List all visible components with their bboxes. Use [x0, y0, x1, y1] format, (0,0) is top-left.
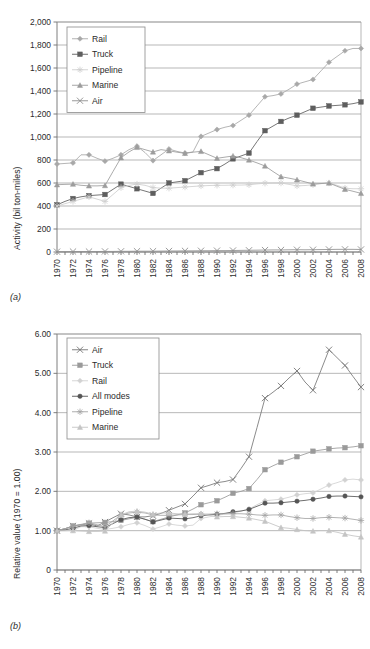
x-tick-label: 1998 — [276, 577, 286, 596]
x-tick-label: 1996 — [260, 577, 270, 596]
x-tick-label: 1994 — [244, 577, 254, 596]
y-tick-label: 3.00 — [35, 447, 52, 457]
legend-label: Air — [92, 345, 103, 355]
x-tick-label: 2006 — [340, 259, 350, 278]
plot-area-b: 01.002.003.004.005.006.00197019721974197… — [0, 324, 370, 649]
y-tick-label: 1,400 — [30, 86, 51, 96]
x-tick-label: 1982 — [148, 259, 158, 278]
legend-label: Truck — [92, 49, 114, 59]
x-tick-label: 1972 — [68, 577, 78, 596]
legend-label: Air — [92, 96, 103, 106]
y-tick-label: 4.00 — [35, 408, 52, 418]
x-tick-label: 1978 — [116, 577, 126, 596]
chart-legend: AirTruckRailAll modesPipelineMarine — [67, 338, 159, 439]
x-tick-label: 2008 — [356, 259, 366, 278]
legend-label: Truck — [92, 360, 114, 370]
x-tick-label: 1994 — [244, 259, 254, 278]
y-tick-label: 1,800 — [30, 40, 51, 50]
legend-label: Pipeline — [92, 65, 123, 75]
x-tick-label: 1970 — [52, 577, 62, 596]
x-tick-label: 2006 — [340, 577, 350, 596]
y-tick-label: 200 — [37, 224, 51, 234]
legend-label: Rail — [92, 376, 107, 386]
x-tick-label: 2002 — [308, 577, 318, 596]
x-tick-label: 1970 — [52, 259, 62, 278]
y-tick-label: 2,000 — [30, 17, 51, 27]
plot-area-a: 02004006008001,0001,2001,4001,6001,8002,… — [0, 0, 370, 325]
y-tick-label: 2.00 — [35, 486, 52, 496]
y-tick-label: 400 — [37, 201, 51, 211]
x-tick-label: 1998 — [276, 259, 286, 278]
x-tick-label: 1986 — [180, 259, 190, 278]
y-tick-label: 6.00 — [35, 329, 52, 339]
x-tick-label: 1976 — [100, 259, 110, 278]
chart-panel-b: Relative value (1970 = 1.00) 01.002.003.… — [0, 324, 370, 649]
x-tick-label: 1972 — [68, 259, 78, 278]
y-tick-label: 1,200 — [30, 109, 51, 119]
x-tick-label: 2000 — [292, 577, 302, 596]
y-tick-label: 1.00 — [35, 526, 52, 536]
x-tick-label: 1984 — [164, 577, 174, 596]
series-pipeline — [54, 509, 364, 534]
x-tick-label: 1980 — [132, 577, 142, 596]
legend-label: Pipeline — [92, 407, 123, 417]
x-tick-label: 1992 — [228, 577, 238, 596]
y-tick-label: 800 — [37, 155, 51, 165]
legend-label: Rail — [92, 34, 107, 44]
series-all-modes — [55, 494, 363, 533]
x-tick-label: 2008 — [356, 577, 366, 596]
y-tick-label: 1,000 — [30, 132, 51, 142]
x-tick-label: 1974 — [84, 259, 94, 278]
x-tick-label: 1990 — [212, 259, 222, 278]
y-tick-label: 5.00 — [35, 368, 52, 378]
x-tick-label: 2004 — [324, 577, 334, 596]
x-tick-label: 1980 — [132, 259, 142, 278]
x-tick-label: 1992 — [228, 259, 238, 278]
panel-label-b: (b) — [10, 621, 21, 631]
x-tick-label: 1982 — [148, 577, 158, 596]
x-tick-label: 1988 — [196, 577, 206, 596]
legend-label: Marine — [92, 80, 118, 90]
panel-label-a: (a) — [10, 292, 21, 302]
x-tick-label: 2002 — [308, 259, 318, 278]
chart-legend: RailTruckPipelineMarineAir — [67, 27, 145, 113]
x-tick-label: 1988 — [196, 259, 206, 278]
y-tick-label: 0 — [46, 565, 51, 575]
y-tick-label: 1,600 — [30, 63, 51, 73]
x-tick-label: 1990 — [212, 577, 222, 596]
series-truck — [55, 100, 364, 208]
x-tick-label: 1996 — [260, 259, 270, 278]
x-tick-label: 1986 — [180, 577, 190, 596]
chart-panel-a: Activity (bil ton-miles) 02004006008001,… — [0, 0, 370, 325]
series-truck — [55, 443, 364, 533]
y-tick-label: 600 — [37, 178, 51, 188]
x-tick-label: 1984 — [164, 259, 174, 278]
legend-label: All modes — [92, 391, 130, 401]
x-tick-label: 2004 — [324, 259, 334, 278]
x-tick-label: 2000 — [292, 259, 302, 278]
x-tick-label: 1976 — [100, 577, 110, 596]
legend-label: Marine — [92, 422, 118, 432]
figure-container: Activity (bil ton-miles) 02004006008001,… — [0, 0, 370, 649]
y-tick-label: 0 — [46, 247, 51, 257]
x-tick-label: 1978 — [116, 259, 126, 278]
x-tick-label: 1974 — [84, 577, 94, 596]
